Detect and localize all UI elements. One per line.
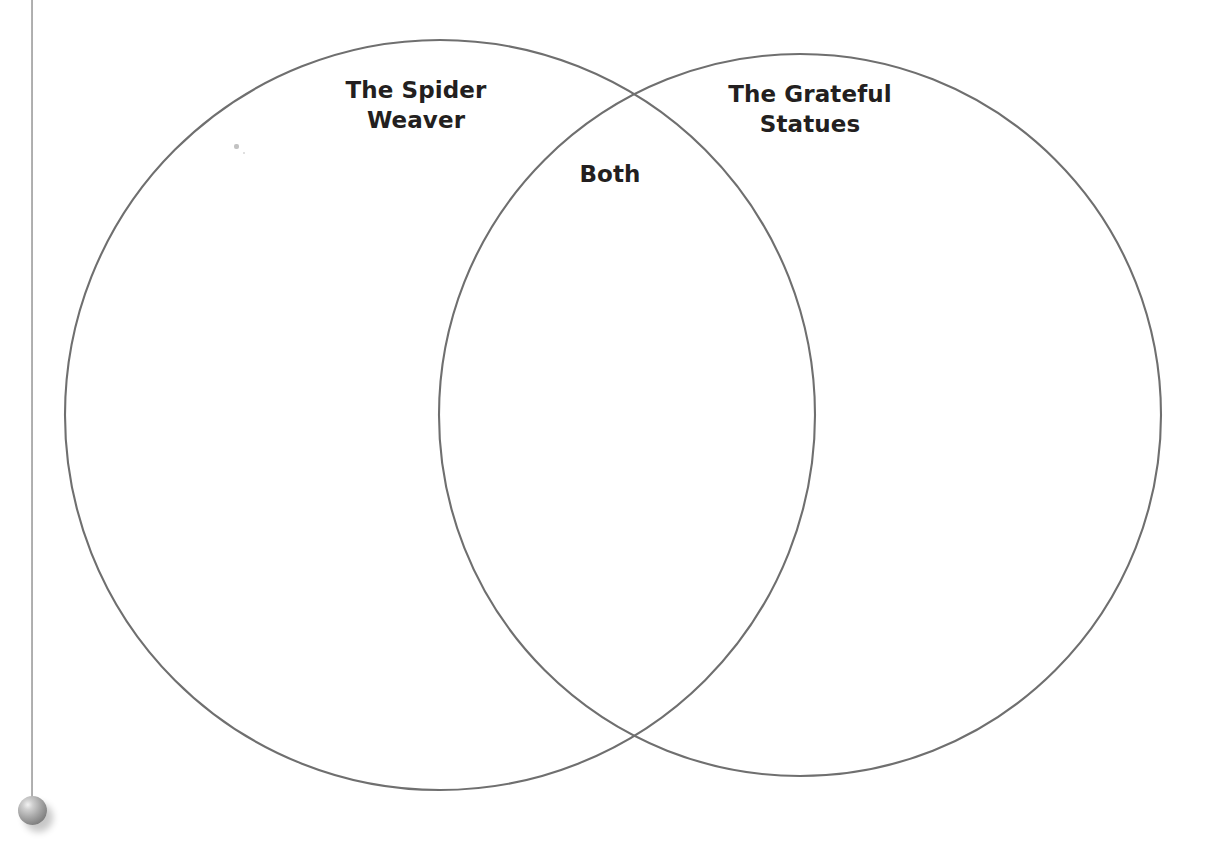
scan-artifact-speck bbox=[234, 144, 239, 149]
worksheet-page: The Spider Weaver The Grateful Statues B… bbox=[0, 0, 1209, 853]
venn-diagram bbox=[0, 0, 1209, 853]
venn-label-right: The Grateful Statues bbox=[710, 80, 910, 140]
scan-artifact-speck-secondary bbox=[243, 152, 245, 154]
plumb-bob-icon bbox=[18, 796, 47, 825]
plumb-line-icon bbox=[31, 0, 33, 800]
venn-circle-right bbox=[439, 54, 1161, 776]
venn-label-both: Both bbox=[556, 160, 664, 190]
venn-label-left: The Spider Weaver bbox=[328, 76, 504, 136]
